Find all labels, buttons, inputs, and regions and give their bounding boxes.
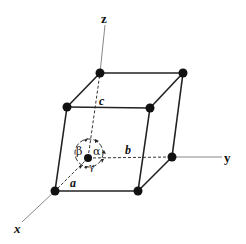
- z-axis-label: z: [101, 11, 107, 26]
- atom: [134, 187, 143, 196]
- dashed-edges: [55, 73, 172, 191]
- edge-c-label: c: [99, 94, 105, 108]
- arrowhead-icon: [95, 139, 99, 143]
- z-axis: [100, 25, 105, 73]
- atom-origin: [84, 154, 92, 162]
- arrowhead-icon: [101, 159, 104, 163]
- atom: [179, 69, 188, 78]
- edge: [138, 157, 172, 191]
- angle-alpha-label: α: [93, 145, 101, 158]
- edge: [55, 107, 67, 191]
- atom: [63, 103, 72, 112]
- arrowhead-icon: [84, 138, 88, 142]
- atom: [96, 69, 105, 78]
- solid-edges: [55, 73, 183, 191]
- edge: [67, 73, 100, 107]
- y-axis-label: y: [224, 150, 231, 165]
- edge-b-dashed: [88, 157, 172, 158]
- angle-gamma-label: γ: [89, 162, 94, 172]
- edge: [172, 73, 183, 157]
- x-axis: [22, 191, 55, 222]
- atom: [51, 187, 60, 196]
- unit-cell-diagram: z y x c b a β α γ: [0, 0, 246, 244]
- angle-beta-label: β: [76, 145, 82, 158]
- atom: [146, 104, 155, 113]
- edge: [138, 108, 150, 191]
- x-axis-label: x: [13, 221, 21, 236]
- atom: [168, 153, 177, 162]
- edge-b-label: b: [125, 143, 131, 157]
- edge: [67, 107, 150, 108]
- arrowhead-icon: [79, 165, 83, 169]
- edge: [150, 73, 183, 108]
- edge-a-label: a: [70, 176, 76, 190]
